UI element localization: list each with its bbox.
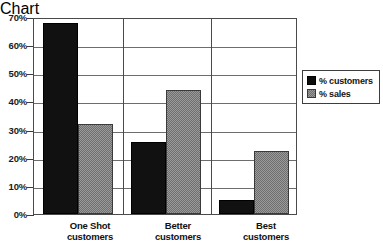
y-tick-label-text: 50% <box>0 69 27 79</box>
y-tick-label-50: 50% <box>0 69 27 79</box>
x-axis-label-line2: customers <box>221 231 311 242</box>
chart-legend: % customers % sales <box>302 70 380 104</box>
y-tick-label-text: 20% <box>0 154 27 164</box>
legend-label-sales: % sales <box>319 89 351 99</box>
bar-one-shot-customers <box>43 23 78 214</box>
legend-swatch-customers-icon <box>307 76 316 85</box>
y-tick-label-20: 20% <box>0 154 27 164</box>
y-axis-tick <box>27 215 34 216</box>
legend-label-customers: % customers <box>319 76 373 86</box>
y-tick-label-text: 10% <box>0 182 27 192</box>
y-tick-label-70: 70% <box>0 13 27 23</box>
x-axis-label-one-shot: One Shot customers <box>45 220 135 242</box>
y-tick-label-40: 40% <box>0 97 27 107</box>
y-tick-label-0: 0% <box>0 210 27 220</box>
panel-divider-1 <box>123 19 124 214</box>
bar-chart: 70% 60% 50% 40% 30% 20% 10% 0% <box>0 0 383 252</box>
y-tick-label-text: 60% <box>0 41 27 51</box>
legend-item-customers: % customers <box>307 74 376 87</box>
bar-better-sales <box>166 90 201 214</box>
bar-better-customers <box>131 142 166 214</box>
legend-swatch-sales-icon <box>307 89 316 98</box>
x-axis-label-line1: Better <box>165 220 191 231</box>
y-tick-label-text: 0% <box>0 210 27 220</box>
x-axis-label-best: Best customers <box>221 220 311 242</box>
bar-best-sales <box>254 151 289 214</box>
x-axis-label-line1: Best <box>256 220 276 231</box>
bar-one-shot-sales <box>78 124 113 214</box>
y-tick-label-10: 10% <box>0 182 27 192</box>
x-axis-label-line2: customers <box>133 231 223 242</box>
y-tick-label-30: 30% <box>0 126 27 136</box>
y-tick-label-text: 70% <box>0 13 27 23</box>
legend-item-sales: % sales <box>307 87 376 100</box>
y-tick-label-text: 40% <box>0 97 27 107</box>
x-axis-label-line1: One Shot <box>70 220 111 231</box>
plot-area <box>33 18 297 215</box>
x-axis-label-better: Better customers <box>133 220 223 242</box>
x-axis-label-line2: customers <box>45 231 135 242</box>
bar-best-customers <box>219 200 254 214</box>
y-tick-label-text: 30% <box>0 126 27 136</box>
panel-divider-2 <box>211 19 212 214</box>
y-tick-label-60: 60% <box>0 41 27 51</box>
